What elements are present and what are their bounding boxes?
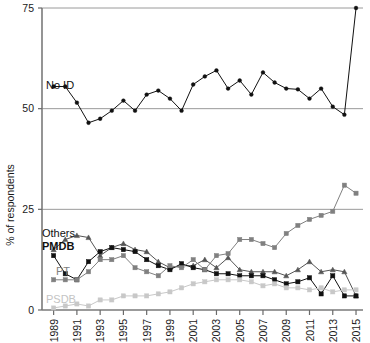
data-point [98, 250, 102, 254]
data-point [249, 274, 253, 278]
data-point [284, 286, 288, 290]
data-point [214, 272, 218, 276]
data-point [319, 87, 323, 91]
data-point [75, 278, 79, 282]
data-point [319, 292, 323, 296]
data-point [98, 258, 102, 262]
x-tick-label-1997: 1997 [141, 319, 153, 343]
x-tick-label-1999: 1999 [164, 319, 176, 343]
data-point [226, 87, 230, 91]
data-point [121, 294, 125, 298]
data-point [284, 231, 288, 235]
y-tick-label-50: 50 [22, 102, 34, 114]
data-point [203, 280, 207, 284]
data-point [273, 278, 277, 282]
data-point [261, 274, 265, 278]
data-point [191, 258, 195, 262]
data-point [342, 183, 346, 187]
data-point [52, 278, 56, 282]
data-point [273, 245, 277, 249]
data-point [226, 272, 230, 276]
data-point [238, 278, 242, 282]
data-point [331, 290, 335, 294]
x-tick-label-2011: 2011 [304, 319, 316, 342]
data-point [52, 254, 56, 258]
data-point [203, 75, 207, 79]
data-point [238, 237, 242, 241]
x-tick-label-2013: 2013 [327, 319, 339, 343]
data-point [110, 245, 114, 249]
data-point [133, 250, 137, 254]
x-tick-label-2001: 2001 [187, 319, 199, 343]
data-point [168, 97, 172, 101]
data-point [214, 278, 218, 282]
x-tick-label-1993: 1993 [94, 319, 106, 343]
data-point [354, 288, 358, 292]
data-point [168, 290, 172, 294]
data-point [191, 266, 195, 270]
data-point [226, 278, 230, 282]
data-point [296, 87, 300, 91]
data-point [214, 254, 218, 258]
x-tick-label-1995: 1995 [117, 319, 129, 343]
data-point [296, 223, 300, 227]
data-point [238, 274, 242, 278]
data-point [180, 109, 184, 113]
data-point [86, 270, 90, 274]
data-point [168, 268, 172, 272]
data-point [307, 288, 311, 292]
data-point [215, 69, 219, 73]
data-point [98, 298, 102, 302]
y-axis-title: % of respondents [4, 164, 16, 246]
data-point [156, 264, 160, 268]
data-point [296, 286, 300, 290]
data-point [122, 99, 126, 103]
data-point [331, 209, 335, 213]
data-point [249, 237, 253, 241]
data-point [319, 286, 323, 290]
data-point [145, 93, 149, 97]
data-point [191, 83, 195, 87]
x-tick-label-2007: 2007 [257, 319, 269, 343]
y-tick-label-0: 0 [28, 304, 34, 316]
data-point [110, 258, 114, 262]
series-label-others: Others [42, 227, 76, 239]
data-point [86, 260, 90, 264]
data-point [121, 254, 125, 258]
chart-container: 0255075 19891991199319951997199920012003… [0, 0, 370, 343]
x-tick-label-1991: 1991 [71, 319, 83, 343]
data-point [121, 248, 125, 252]
x-tick-label-1989: 1989 [48, 319, 60, 343]
data-point [249, 280, 253, 284]
data-point [110, 109, 114, 113]
data-point [354, 6, 358, 10]
data-point [354, 294, 358, 298]
data-point [238, 79, 242, 83]
data-point [110, 298, 114, 302]
data-point [307, 276, 311, 280]
data-point [308, 97, 312, 101]
data-point [87, 121, 91, 125]
data-point [261, 241, 265, 245]
data-point [133, 266, 137, 270]
data-point [133, 294, 137, 298]
data-point [331, 274, 335, 278]
data-point [98, 117, 102, 121]
data-point [145, 258, 149, 262]
data-point [249, 93, 253, 97]
data-point [296, 280, 300, 284]
data-point [273, 81, 277, 85]
data-point [179, 262, 183, 266]
data-point [319, 213, 323, 217]
data-point [331, 105, 335, 109]
data-point [307, 217, 311, 221]
data-point [203, 268, 207, 272]
series-label-pmdb: PMDB [42, 240, 74, 252]
data-point [52, 306, 56, 310]
x-tick-label-2015: 2015 [350, 319, 362, 343]
data-point [86, 304, 90, 308]
data-point [191, 282, 195, 286]
chart-background [0, 0, 370, 343]
data-point [226, 252, 230, 256]
data-point [284, 282, 288, 286]
